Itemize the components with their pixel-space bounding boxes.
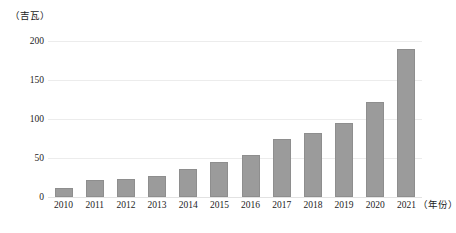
x-tick-label-2018: 2018: [297, 199, 328, 211]
y-axis-tick-labels: 050100150200: [0, 41, 44, 197]
bar-2013: [148, 176, 166, 197]
y-tick-label-200: 200: [4, 36, 44, 46]
y-tick-label-0: 0: [4, 192, 44, 202]
x-tick-label-2017: 2017: [266, 199, 297, 211]
bar-2019: [335, 123, 353, 197]
x-tick-label-2021: 2021: [391, 199, 422, 211]
x-axis-tick-labels: 2010201120122013201420152016201720182019…: [48, 199, 422, 219]
x-tick-label-2010: 2010: [48, 199, 79, 211]
x-tick-label-2015: 2015: [204, 199, 235, 211]
bars-layer: [48, 41, 422, 197]
x-tick-label-2011: 2011: [79, 199, 110, 211]
x-tick-label-2020: 2020: [360, 199, 391, 211]
bar-2012: [117, 179, 135, 197]
bar-2020: [366, 102, 384, 197]
bar-2011: [86, 180, 104, 197]
y-tick-label-150: 150: [4, 75, 44, 85]
bar-2016: [242, 155, 260, 197]
x-tick-label-2012: 2012: [110, 199, 141, 211]
y-tick-label-100: 100: [4, 114, 44, 124]
bar-2015: [210, 162, 228, 197]
x-tick-label-2019: 2019: [329, 199, 360, 211]
y-tick-label-50: 50: [4, 153, 44, 163]
bar-2018: [304, 133, 322, 197]
bar-2010: [55, 188, 73, 197]
x-tick-label-2014: 2014: [173, 199, 204, 211]
y-axis-unit-label: （吉瓦）: [10, 10, 50, 22]
x-axis-unit-label: （年份）: [418, 199, 456, 211]
bar-2021: [397, 49, 415, 197]
bar-2017: [273, 139, 291, 197]
x-tick-label-2013: 2013: [142, 199, 173, 211]
x-tick-label-2016: 2016: [235, 199, 266, 211]
bar-2014: [179, 169, 197, 197]
